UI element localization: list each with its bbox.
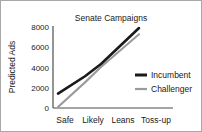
chart-frame: Senate Campaigns Predicted Ads 8000 6000… — [0, 0, 202, 132]
senate-campaigns-line-chart: Senate Campaigns Predicted Ads 8000 6000… — [1, 1, 202, 132]
y-tick-label-2000: 2000 — [31, 84, 49, 93]
x-tick-label-tossup: Toss-up — [141, 115, 171, 125]
legend-label-challenger: Challenger — [151, 84, 192, 94]
challenger-data-line — [58, 34, 139, 107]
y-tick-label-4000: 4000 — [31, 64, 49, 73]
y-tick-label-6000: 6000 — [31, 43, 49, 52]
y-tick-label-0: 0 — [45, 104, 50, 113]
x-tick-label-leans: Leans — [111, 115, 134, 125]
x-tick-label-likely: Likely — [82, 115, 104, 125]
incumbent-data-line — [58, 28, 139, 94]
y-axis-title: Predicted Ads — [7, 41, 17, 93]
chart-title: Senate Campaigns — [75, 13, 147, 23]
x-tick-label-safe: Safe — [56, 115, 74, 125]
y-tick-label-8000: 8000 — [31, 23, 49, 32]
legend-label-incumbent: Incumbent — [151, 70, 191, 80]
